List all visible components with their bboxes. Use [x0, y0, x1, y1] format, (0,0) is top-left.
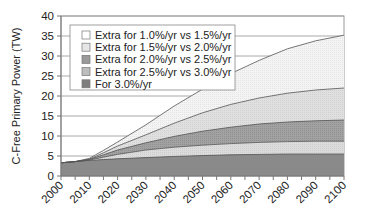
legend-label: Extra for 2.5%/yr vs 3.0%/yr: [95, 66, 232, 78]
stacked-area-chart: 0510152025303540 20002010202020302040205…: [0, 0, 366, 217]
y-tick-label: 30: [41, 50, 54, 62]
x-tick-label: 2100: [322, 179, 349, 206]
x-tick-label: 2060: [209, 179, 236, 206]
y-tick-label: 20: [41, 90, 54, 102]
x-tick-label: 2050: [180, 179, 207, 206]
legend-label: Extra for 2.0%/yr vs 2.5%/yr: [95, 53, 232, 65]
x-tick-label: 2010: [67, 179, 94, 206]
y-tick-label: 5: [48, 150, 54, 162]
y-axis-ticks: 0510152025303540: [41, 10, 61, 182]
legend-swatch: [82, 43, 90, 51]
legend-label: For 3.0%/yr: [95, 78, 152, 90]
y-tick-label: 10: [41, 130, 54, 142]
legend-label: Extra for 1.5%/yr vs 2.0%/yr: [95, 41, 232, 53]
legend-swatch: [82, 55, 90, 63]
x-tick-label: 2000: [39, 179, 66, 206]
y-axis-title: C-Free Primary Power (TW): [10, 28, 22, 165]
legend: Extra for 1.0%/yr vs 1.5%/yrExtra for 1.…: [70, 25, 235, 90]
x-axis-ticks: 2000201020202030204020502060207020802090…: [39, 176, 349, 206]
x-tick-label: 2070: [237, 179, 264, 206]
y-tick-label: 35: [41, 30, 54, 42]
y-tick-label: 15: [41, 110, 54, 122]
y-tick-label: 0: [48, 170, 54, 182]
x-tick-label: 2080: [265, 179, 292, 206]
x-tick-label: 2020: [95, 179, 122, 206]
x-tick-label: 2030: [124, 179, 151, 206]
y-tick-label: 25: [41, 70, 54, 82]
legend-swatch: [82, 68, 90, 76]
legend-label: Extra for 1.0%/yr vs 1.5%/yr: [95, 29, 232, 41]
y-tick-label: 40: [41, 10, 54, 22]
x-tick-label: 2090: [294, 179, 321, 206]
legend-swatch: [82, 31, 90, 39]
x-tick-label: 2040: [152, 179, 179, 206]
legend-swatch: [82, 80, 90, 88]
